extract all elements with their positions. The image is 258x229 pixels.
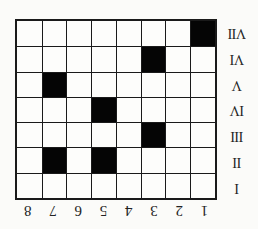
row-label-IV: IV bbox=[222, 102, 252, 118]
grid-cell-IV-5 bbox=[91, 97, 116, 122]
grid-cell-V-1 bbox=[190, 72, 215, 97]
grid-cell-IV-1 bbox=[190, 97, 215, 122]
grid-cell-V-2 bbox=[166, 72, 191, 97]
column-label-4: 4 bbox=[116, 202, 141, 219]
grid-cell-VI-4 bbox=[116, 46, 141, 71]
grid-cell-III-7 bbox=[42, 122, 67, 147]
row-label-V: V bbox=[222, 77, 252, 93]
grid-cell-V-8 bbox=[17, 72, 42, 97]
grid-cell-IV-4 bbox=[116, 97, 141, 122]
grid-cell-VI-7 bbox=[42, 46, 67, 71]
grid-cell-VI-2 bbox=[166, 46, 191, 71]
grid-cell-II-5 bbox=[91, 147, 116, 172]
grid-cell-III-5 bbox=[91, 122, 116, 147]
rotated-diagram: 12345678 IIIIIIIVVVIVII bbox=[0, 0, 258, 229]
grid-cell-II-4 bbox=[116, 147, 141, 172]
column-label-2: 2 bbox=[167, 202, 192, 219]
grid-cell-VII-7 bbox=[42, 21, 67, 46]
grid-cell-I-2 bbox=[166, 173, 191, 198]
row-label-III: III bbox=[222, 128, 252, 144]
grid-cell-II-6 bbox=[67, 147, 92, 172]
grid-cell-VI-1 bbox=[190, 46, 215, 71]
grid-cell-VI-5 bbox=[91, 46, 116, 71]
grid-cell-IV-3 bbox=[141, 97, 166, 122]
grid-cell-V-4 bbox=[116, 72, 141, 97]
grid-cell-VII-4 bbox=[116, 21, 141, 46]
grid-cell-III-1 bbox=[190, 122, 215, 147]
grid-cell-IV-2 bbox=[166, 97, 191, 122]
grid-cell-V-5 bbox=[91, 72, 116, 97]
grid-cell-V-3 bbox=[141, 72, 166, 97]
row-label-II: II bbox=[222, 154, 252, 170]
grid-cell-III-4 bbox=[116, 122, 141, 147]
grid-cell-I-7 bbox=[42, 173, 67, 198]
grid-cell-I-4 bbox=[116, 173, 141, 198]
grid-cell-VII-6 bbox=[67, 21, 92, 46]
grid-cell-III-2 bbox=[166, 122, 191, 147]
grid-cell-V-7 bbox=[42, 72, 67, 97]
column-label-7: 7 bbox=[41, 202, 66, 219]
grid-cell-VI-3 bbox=[141, 46, 166, 71]
grid-cell-IV-6 bbox=[67, 97, 92, 122]
grid-cell-III-3 bbox=[141, 122, 166, 147]
row-label-VI: VI bbox=[222, 51, 252, 67]
grid-cell-VII-3 bbox=[141, 21, 166, 46]
grid-cell-V-6 bbox=[67, 72, 92, 97]
column-label-6: 6 bbox=[66, 202, 91, 219]
column-label-5: 5 bbox=[91, 202, 116, 219]
column-label-1: 1 bbox=[192, 202, 217, 219]
grid-cell-II-8 bbox=[17, 147, 42, 172]
grid-cell-IV-7 bbox=[42, 97, 67, 122]
grid-cell-II-3 bbox=[141, 147, 166, 172]
grid-cell-II-7 bbox=[42, 147, 67, 172]
grid-cell-I-3 bbox=[141, 173, 166, 198]
row-label-I: I bbox=[222, 180, 252, 196]
grid bbox=[15, 19, 217, 200]
column-label-8: 8 bbox=[15, 202, 40, 219]
grid-cell-III-6 bbox=[67, 122, 92, 147]
grid-cell-II-2 bbox=[166, 147, 191, 172]
grid-cell-I-6 bbox=[67, 173, 92, 198]
grid-cell-VII-1 bbox=[190, 21, 215, 46]
grid-cell-VII-8 bbox=[17, 21, 42, 46]
grid-cell-VII-5 bbox=[91, 21, 116, 46]
column-label-3: 3 bbox=[142, 202, 167, 219]
grid-cell-VI-8 bbox=[17, 46, 42, 71]
grid-cell-III-8 bbox=[17, 122, 42, 147]
grid-cell-II-1 bbox=[190, 147, 215, 172]
grid-cell-I-8 bbox=[17, 173, 42, 198]
grid-cell-VI-6 bbox=[67, 46, 92, 71]
grid-cell-I-5 bbox=[91, 173, 116, 198]
grid-cell-IV-8 bbox=[17, 97, 42, 122]
grid-cell-VII-2 bbox=[166, 21, 191, 46]
grid-cell-I-1 bbox=[190, 173, 215, 198]
row-label-VII: VII bbox=[222, 25, 252, 41]
